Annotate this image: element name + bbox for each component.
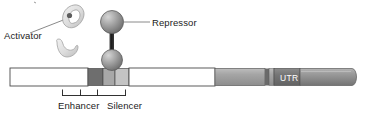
repressor-sphere-lower bbox=[102, 50, 123, 71]
dna-segment-spacer bbox=[103, 69, 115, 86]
activator-crescent-upper-icon bbox=[63, 5, 84, 28]
activator-label: Activator bbox=[4, 30, 42, 41]
dna-segment-pre-utr bbox=[269, 69, 274, 86]
repressor-label: Repressor bbox=[152, 17, 197, 28]
top-tick-mark bbox=[34, 2, 36, 3]
dna-segment-silencer bbox=[115, 69, 129, 86]
dna-segment-intergenic-white bbox=[129, 68, 215, 86]
silencer-label: Silencer bbox=[107, 100, 142, 111]
activator-crescent-lower-icon bbox=[57, 39, 78, 57]
dna-segment-divider bbox=[265, 69, 269, 86]
dna-segment-enhancer bbox=[88, 69, 103, 86]
utr-label: UTR bbox=[280, 73, 298, 83]
dna-segment-exon bbox=[215, 69, 265, 86]
enhancer-label: Enhancer bbox=[58, 100, 99, 111]
gene-regulation-diagram: UTR Activator Repressor Enhancer Silence… bbox=[0, 0, 370, 116]
repressor-sphere-upper bbox=[101, 11, 124, 34]
dna-segment-upstream-white bbox=[10, 68, 88, 86]
